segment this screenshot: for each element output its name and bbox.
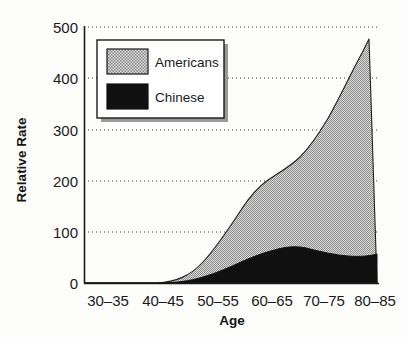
x-tick-50-55: 50–55 [197, 292, 239, 309]
y-tick-500: 500 [53, 19, 78, 36]
chart-svg: 500 400 300 200 100 0 30–35 40–45 50–55 … [0, 0, 408, 337]
x-tick-80-85: 80–85 [354, 292, 396, 309]
x-tick-60-65: 60–65 [251, 292, 293, 309]
stacked-area-chart: 500 400 300 200 100 0 30–35 40–45 50–55 … [0, 0, 408, 337]
legend-label-americans: Americans [155, 55, 219, 70]
y-tick-100: 100 [53, 224, 78, 241]
y-axis-title: Relative Rate [14, 117, 29, 202]
x-tick-labels: 30–35 40–45 50–55 60–65 70–75 80–85 [87, 292, 396, 309]
y-tick-labels: 500 400 300 200 100 0 [53, 19, 78, 292]
x-axis-title: Age [219, 313, 245, 328]
chart-legend[interactable]: Americans Chinese [97, 40, 228, 122]
x-tick-70-75: 70–75 [303, 292, 345, 309]
y-tick-300: 300 [53, 122, 78, 139]
legend-swatch-chinese [107, 84, 148, 109]
y-tick-0: 0 [70, 275, 78, 292]
legend-swatch-americans [107, 49, 148, 74]
x-tick-40-45: 40–45 [142, 292, 184, 309]
y-tick-200: 200 [53, 173, 78, 190]
y-tick-400: 400 [53, 70, 78, 87]
x-tick-30-35: 30–35 [87, 292, 129, 309]
legend-label-chinese: Chinese [155, 90, 205, 105]
